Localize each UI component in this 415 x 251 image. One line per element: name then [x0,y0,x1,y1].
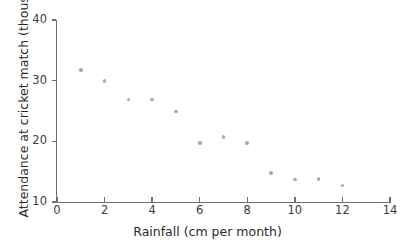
x-tick-label: 8 [232,205,262,217]
x-tick-label: 2 [90,205,120,217]
data-point [79,68,83,72]
x-axis-label: Rainfall (cm per month) [0,224,415,239]
y-tick-mark [52,19,57,20]
x-tick-label: 6 [185,205,215,217]
data-point [198,141,202,145]
plot-area [57,20,390,202]
data-point [269,171,273,175]
y-axis-label: Attendance at cricket match (thousands) [16,8,31,218]
x-tick-label: 4 [137,205,167,217]
x-tick-label: 10 [280,205,310,217]
y-tick-mark [52,141,57,142]
data-point [293,178,297,182]
x-tick-label: 12 [327,205,357,217]
x-tick-label: 0 [42,205,72,217]
data-point [245,141,249,145]
x-tick-label: 14 [375,205,405,217]
y-tick-mark [52,80,57,81]
data-point [222,135,226,139]
scatter-chart-figure: 10203040 02468101214 Rainfall (cm per mo… [0,0,415,251]
